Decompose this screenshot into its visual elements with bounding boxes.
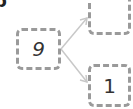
source-number-box: 9 [16,28,61,70]
answer-box-bottom[interactable]: 1 [88,64,131,107]
answer-bottom-value: 1 [103,74,116,98]
arrow-to-bottom-box [61,49,87,82]
source-number: 9 [32,37,45,61]
answer-box-top[interactable] [88,0,131,35]
arrow-to-top-box [61,18,87,49]
